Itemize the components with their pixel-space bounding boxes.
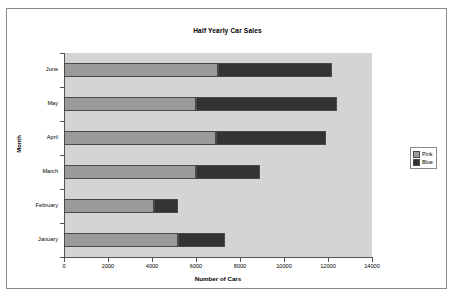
legend-entry-blue[interactable]: Blue <box>413 158 433 166</box>
y-axis-label-may: May <box>47 100 58 106</box>
bar-segment-pink[interactable] <box>64 165 196 179</box>
chart-frame: Half Yearly Car Sales JanuaryFebruaryMar… <box>6 8 447 289</box>
x-axis-tick <box>196 258 197 262</box>
legend-label: Blue <box>422 158 433 166</box>
bar-row <box>64 63 332 77</box>
chart-title: Half Yearly Car Sales <box>7 27 448 34</box>
legend-entry-pink[interactable]: Pink <box>413 150 433 158</box>
x-axis-label: 2000 <box>102 263 114 269</box>
y-axis-tick <box>60 155 64 156</box>
x-axis-tick <box>64 258 65 262</box>
x-axis-label: 0 <box>62 263 65 269</box>
y-axis-tick <box>60 87 64 88</box>
bar-segment-blue[interactable] <box>218 63 332 77</box>
y-axis-label-january: January <box>38 236 58 242</box>
bar-segment-pink[interactable] <box>64 131 216 145</box>
y-axis-label-february: February <box>36 202 58 208</box>
x-axis-label: 12000 <box>320 263 336 269</box>
x-axis-tick <box>284 258 285 262</box>
y-axis-tick <box>60 121 64 122</box>
plot-area <box>64 53 372 257</box>
x-axis-label: 8000 <box>234 263 246 269</box>
bar-segment-pink[interactable] <box>64 97 196 111</box>
legend-swatch-pink-icon <box>413 151 420 158</box>
legend-swatch-blue-icon <box>413 159 420 166</box>
bar-row <box>64 165 260 179</box>
x-axis-label: 4000 <box>146 263 158 269</box>
x-axis-label: 6000 <box>190 263 202 269</box>
bar-segment-pink[interactable] <box>64 199 154 213</box>
bar-segment-blue[interactable] <box>178 233 224 247</box>
y-axis-title: Month <box>16 119 22 169</box>
x-axis-tick <box>152 258 153 262</box>
bar-segment-blue[interactable] <box>196 97 337 111</box>
x-axis-label: 10000 <box>276 263 292 269</box>
legend[interactable]: PinkBlue <box>410 147 437 169</box>
y-axis-tick <box>60 189 64 190</box>
x-axis-label: 14000 <box>364 263 380 269</box>
x-axis-tick <box>328 258 329 262</box>
bar-row <box>64 131 326 145</box>
y-axis-labels: JanuaryFebruaryMarchAprilMayJune <box>7 53 58 257</box>
x-axis-tick <box>240 258 241 262</box>
bar-segment-blue[interactable] <box>154 199 178 213</box>
y-axis-label-april: April <box>47 134 58 140</box>
bar-row <box>64 199 178 213</box>
bar-segment-blue[interactable] <box>216 131 326 145</box>
bar-row <box>64 233 225 247</box>
bar-row <box>64 97 337 111</box>
y-axis-line <box>64 53 65 258</box>
y-axis-label-june: June <box>46 66 58 72</box>
y-axis-label-march: March <box>42 168 58 174</box>
x-axis-tick <box>108 258 109 262</box>
bar-segment-pink[interactable] <box>64 63 218 77</box>
x-axis-line <box>64 257 373 258</box>
legend-label: Pink <box>422 150 433 158</box>
bar-segment-blue[interactable] <box>196 165 260 179</box>
y-axis-tick <box>60 223 64 224</box>
x-axis-title: Number of Cars <box>64 275 372 282</box>
y-axis-tick <box>60 53 64 54</box>
bar-segment-pink[interactable] <box>64 233 178 247</box>
x-axis-tick <box>372 258 373 262</box>
